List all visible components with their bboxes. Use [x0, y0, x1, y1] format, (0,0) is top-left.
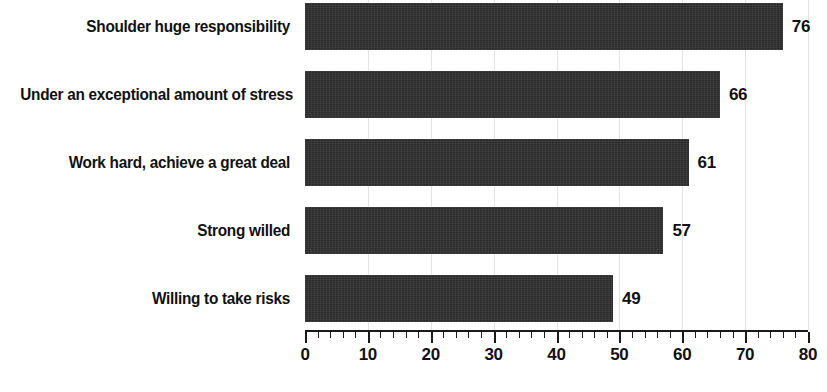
axis-tick-minor [380, 332, 381, 338]
axis-tick-minor [544, 332, 545, 338]
axis-tick-minor [456, 332, 457, 338]
axis-tick-minor [569, 332, 570, 338]
axis-tick-label: 20 [422, 346, 440, 363]
axis-tick-minor [418, 332, 419, 338]
axis-tick-minor [531, 332, 532, 338]
category-axis-labels: Shoulder huge responsibilityUnder an exc… [0, 0, 298, 330]
axis-tick-minor [720, 332, 721, 338]
gridline-80 [808, 0, 809, 330]
axis-tick-minor [783, 332, 784, 338]
axis-tick-major [557, 332, 559, 343]
bar-value-label: 76 [792, 18, 810, 35]
axis-tick-minor [770, 332, 771, 338]
axis-tick-label: 0 [300, 346, 309, 363]
bar-value-label: 57 [672, 222, 690, 239]
bar [305, 275, 613, 322]
axis-tick-minor [468, 332, 469, 338]
bar-value-label: 49 [622, 290, 640, 307]
axis-tick-label: 10 [359, 346, 377, 363]
category-label: Under an exceptional amount of stress [20, 86, 290, 103]
axis-tick-minor [355, 332, 356, 338]
bar-value-label: 61 [698, 154, 716, 171]
bar-chart: Shoulder huge responsibilityUnder an exc… [0, 0, 827, 392]
axis-tick-minor [582, 332, 583, 338]
category-label: Strong willed [20, 222, 290, 239]
axis-tick-major [808, 332, 810, 343]
axis-tick-minor [594, 332, 595, 338]
bar [305, 139, 689, 186]
axis-tick-minor [393, 332, 394, 338]
axis-tick-minor [670, 332, 671, 338]
axis-tick-label: 40 [547, 346, 565, 363]
axis-tick-minor [519, 332, 520, 338]
axis-tick-minor [707, 332, 708, 338]
axis-tick-minor [406, 332, 407, 338]
bar [305, 3, 783, 50]
axis-tick-minor [481, 332, 482, 338]
axis-tick-label: 60 [673, 346, 691, 363]
axis-tick-label: 50 [610, 346, 628, 363]
axis-tick-major [682, 332, 684, 343]
axis-tick-major [745, 332, 747, 343]
axis-tick-minor [607, 332, 608, 338]
axis-tick-minor [758, 332, 759, 338]
axis-tick-minor [330, 332, 331, 338]
category-label: Shoulder huge responsibility [20, 18, 290, 35]
axis-tick-major [368, 332, 370, 343]
axis-tick-major [619, 332, 621, 343]
bar [305, 207, 663, 254]
axis-tick-major [305, 332, 307, 343]
axis-tick-minor [318, 332, 319, 338]
plot-area: 7666615749 [305, 0, 808, 330]
axis-tick-minor [657, 332, 658, 338]
axis-tick-major [494, 332, 496, 343]
axis-tick-minor [695, 332, 696, 338]
axis-tick-label: 70 [736, 346, 754, 363]
axis-tick-minor [645, 332, 646, 338]
category-label: Work hard, achieve a great deal [20, 154, 290, 171]
axis-tick-minor [506, 332, 507, 338]
axis-tick-label: 80 [799, 346, 817, 363]
value-axis: 01020304050607080 [305, 330, 808, 392]
bar-value-label: 66 [729, 86, 747, 103]
bar [305, 71, 720, 118]
axis-tick-minor [443, 332, 444, 338]
axis-tick-minor [733, 332, 734, 338]
axis-tick-minor [632, 332, 633, 338]
axis-tick-major [431, 332, 433, 343]
category-label: Willing to take risks [20, 290, 290, 307]
axis-tick-label: 30 [484, 346, 502, 363]
axis-tick-minor [795, 332, 796, 338]
axis-tick-minor [343, 332, 344, 338]
